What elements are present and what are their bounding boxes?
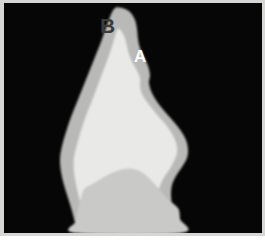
annotation-label-b: B <box>100 15 115 36</box>
figure-bottom-margin <box>0 236 265 246</box>
micrograph-frame: B A <box>0 0 265 236</box>
annotation-label-a: A <box>134 48 146 65</box>
micrograph-plate: B A <box>4 3 262 233</box>
figure-root: B A <box>0 0 265 246</box>
specimen-diagram <box>4 3 262 233</box>
